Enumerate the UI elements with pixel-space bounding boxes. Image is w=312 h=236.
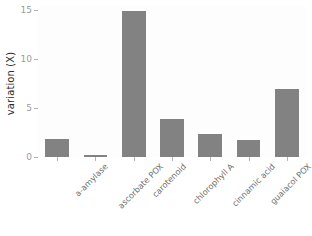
bar [237,140,261,157]
bar [160,119,184,157]
y-axis-title-text: variation (X) [6,51,17,114]
bar [198,134,222,157]
bar [275,89,299,157]
y-axis-tick: 10 [21,54,38,66]
x-axis-label-group: a-amylaseascorbate POXcarotenoidchloroph… [0,162,312,236]
y-axis-title: variation (X) [0,0,22,166]
bar [122,11,146,157]
x-axis-tick-mark [172,157,173,161]
x-axis-tick-mark [249,157,250,161]
plot-area [38,6,306,157]
y-axis-tick: 5 [26,102,38,114]
y-axis-tick-label: 0 [26,153,32,162]
y-axis-tick-label: 10 [21,55,32,64]
x-axis-tick-mark [210,157,211,161]
bar [45,139,69,158]
x-axis-tick-label: chlorophyll A [192,162,235,205]
y-axis-tick: 15 [21,5,38,17]
y-axis-tick-label: 5 [26,104,32,113]
x-axis-tick-mark [287,157,288,161]
y-axis-tick-group: 151050 [20,0,38,166]
x-axis-tick-mark [134,157,135,161]
x-axis-tick-mark [57,157,58,161]
bar-chart-figure: variation (X) 151050 a-amylaseascorbate … [0,0,312,236]
y-axis-tick-label: 15 [21,6,32,15]
x-axis-tick-mark [95,157,96,161]
x-axis-tick-label: a-amylase [74,162,110,198]
